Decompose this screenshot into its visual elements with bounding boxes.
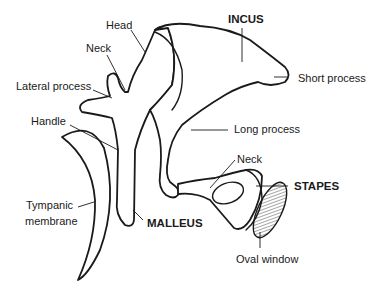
label-stapes: STAPES [294,180,339,192]
label-neck-malleus: Neck [86,42,111,54]
ossicles-diagram [0,0,382,294]
label-neck-stapes: Neck [237,153,262,165]
label-short-process: Short process [298,72,366,84]
label-handle: Handle [31,115,66,127]
label-long-process: Long process [234,123,300,135]
label-oval-window: Oval window [236,253,298,265]
label-head: Head [106,19,132,31]
label-tympanic-membrane-line1: Tympanic [26,199,73,211]
label-incus: INCUS [228,13,264,25]
label-lateral-process: Lateral process [16,80,91,92]
label-malleus: MALLEUS [147,217,203,229]
label-tympanic-membrane-line2: membrane [25,215,78,227]
